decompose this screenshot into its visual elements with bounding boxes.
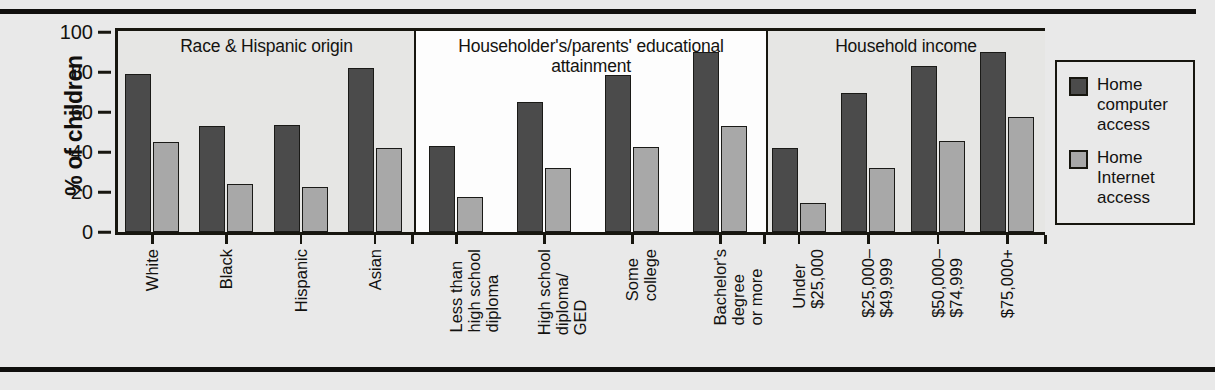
y-tick-label: 80	[71, 61, 93, 84]
x-axis-label: Some college	[624, 249, 660, 301]
bar-internet	[633, 147, 659, 232]
x-axis-label: Bachelor's degree or more	[712, 249, 765, 326]
legend-item: Home computer access	[1069, 75, 1193, 135]
x-axis-label: $75,000+	[999, 249, 1017, 318]
x-axis-label: High school diploma/ GED	[536, 249, 589, 335]
y-tick-label: 60	[71, 101, 93, 124]
x-axis-group-tick	[411, 235, 414, 244]
y-tick-label: 0	[82, 221, 93, 244]
bar-internet	[376, 148, 402, 232]
bottom-rule	[0, 367, 1215, 372]
x-tick	[225, 235, 228, 244]
x-tick	[867, 235, 870, 244]
bar-computer	[605, 75, 631, 232]
x-axis-label: Asian	[367, 249, 385, 290]
x-axis-label: Under $25,000	[791, 249, 827, 309]
bar-internet	[457, 197, 483, 232]
x-axis-label: $50,000– $74,999	[930, 249, 966, 318]
x-tick	[374, 235, 377, 244]
bar-internet	[800, 203, 826, 232]
legend-label: Home computer access	[1097, 75, 1168, 135]
x-axis-group-tick	[763, 235, 766, 244]
figure-container: % of children 100806040200 Race & Hispan…	[0, 0, 1215, 390]
chart-legend: Home computer accessHome Internet access	[1055, 60, 1195, 225]
x-tick	[455, 235, 458, 244]
bar-computer	[980, 52, 1006, 232]
x-axis: WhiteBlackHispanicAsianLess than high sc…	[115, 235, 1045, 365]
bar-computer	[693, 52, 719, 232]
legend-item: Home Internet access	[1069, 148, 1193, 208]
x-axis-label: Less than high school diploma	[448, 249, 501, 332]
y-tick-label: 20	[71, 181, 93, 204]
x-tick	[1006, 235, 1009, 244]
y-tick-mark	[98, 191, 111, 194]
x-tick	[937, 235, 940, 244]
legend-swatch-internet	[1069, 150, 1088, 169]
x-tick	[151, 235, 154, 244]
bar-internet	[869, 168, 895, 232]
legend-label: Home Internet access	[1097, 148, 1155, 208]
bar-computer	[911, 66, 937, 232]
y-tick-mark	[98, 31, 111, 34]
bar-computer	[125, 74, 151, 232]
y-tick-mark	[98, 151, 111, 154]
bar-internet	[721, 126, 747, 232]
bar-internet	[1008, 117, 1034, 232]
top-rule	[0, 9, 1196, 14]
legend-swatch-computer	[1069, 77, 1088, 96]
y-tick-mark	[98, 71, 111, 74]
x-axis-label: Black	[218, 249, 236, 289]
x-tick	[631, 235, 634, 244]
bar-computer	[348, 68, 374, 232]
x-tick	[719, 235, 722, 244]
bar-internet	[545, 168, 571, 232]
bar-computer	[772, 148, 798, 232]
y-axis: % of children 100806040200	[36, 28, 115, 235]
y-tick-label: 40	[71, 141, 93, 164]
bar-computer	[274, 125, 300, 232]
bar-computer	[841, 93, 867, 232]
x-axis-group-tick	[1044, 235, 1047, 244]
bars-layer	[115, 28, 1045, 235]
x-tick	[300, 235, 303, 244]
y-tick-label: 100	[60, 21, 93, 44]
bar-computer	[429, 146, 455, 232]
bar-computer	[517, 102, 543, 232]
x-tick	[543, 235, 546, 244]
bar-computer	[199, 126, 225, 232]
x-tick	[798, 235, 801, 244]
y-tick-mark	[98, 231, 111, 234]
bar-internet	[302, 187, 328, 232]
bar-internet	[227, 184, 253, 232]
x-axis-label: White	[144, 249, 162, 291]
y-tick-mark	[98, 111, 111, 114]
x-axis-label: $25,000– $49,999	[860, 249, 896, 318]
bar-internet	[939, 141, 965, 232]
bar-internet	[153, 142, 179, 232]
x-axis-label: Hispanic	[293, 249, 311, 312]
